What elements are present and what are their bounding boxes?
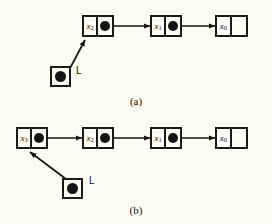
node-key-subscript: 3 — [24, 137, 27, 144]
list-node-b-1: x2 — [82, 127, 114, 149]
node-null-cell — [232, 129, 246, 147]
list-node-a-0: x2 — [82, 15, 114, 37]
filled-dot-icon — [100, 21, 110, 31]
node-next-cell — [166, 129, 180, 147]
node-key-subscript: 2 — [90, 137, 93, 144]
node-key-cell: x3 — [18, 129, 32, 147]
node-next-cell — [166, 17, 180, 35]
node-null-cell — [232, 17, 246, 35]
list-node-a-1: x1 — [150, 15, 182, 37]
list-node-a-2: x0 — [215, 15, 248, 37]
list-node-b-0: x3 — [16, 127, 48, 149]
node-key-cell: x0 — [217, 129, 232, 147]
filled-dot-icon — [168, 21, 178, 31]
pointer-variable-box-a — [50, 66, 71, 87]
node-key-cell: x1 — [152, 129, 166, 147]
list-node-b-2: x1 — [150, 127, 182, 149]
pointer-variable-label-a: L — [76, 66, 82, 76]
node-key-cell: x1 — [152, 17, 166, 35]
node-key-cell: x2 — [84, 17, 98, 35]
node-key-subscript: 1 — [158, 25, 161, 32]
filled-dot-icon — [67, 183, 78, 194]
node-next-cell — [98, 17, 112, 35]
node-next-cell — [32, 129, 46, 147]
node-key-subscript: 1 — [158, 137, 161, 144]
panel-caption-a: (a) — [116, 96, 156, 107]
panel-caption-b: (b) — [116, 205, 156, 216]
list-node-b-3: x0 — [215, 127, 248, 149]
filled-dot-icon — [34, 133, 44, 143]
filled-dot-icon — [168, 133, 178, 143]
filled-dot-icon — [100, 133, 110, 143]
node-key-subscript: 0 — [224, 25, 227, 32]
node-key-cell: x2 — [84, 129, 98, 147]
node-next-cell — [98, 129, 112, 147]
node-key-cell: x0 — [217, 17, 232, 35]
node-key-subscript: 0 — [224, 137, 227, 144]
pointer-variable-label-b: L — [89, 176, 95, 186]
linked-list-figure: x2 x1 x0 L (a) x3 x2 — [0, 0, 272, 224]
node-key-subscript: 2 — [90, 25, 93, 32]
filled-dot-icon — [55, 71, 66, 82]
pointer-variable-box-b — [62, 178, 83, 199]
